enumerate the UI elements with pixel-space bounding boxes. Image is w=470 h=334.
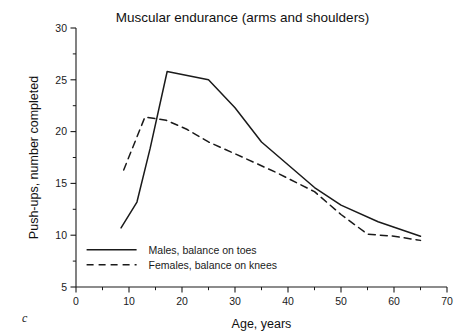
x-tick-label: 0 [73, 295, 79, 307]
panel-label: c [22, 311, 28, 325]
x-tick-label: 60 [388, 295, 400, 307]
y-tick-label: 5 [61, 281, 67, 293]
x-tick-label: 40 [282, 295, 294, 307]
y-tick-label: 10 [55, 229, 67, 241]
x-tick-label: 10 [123, 295, 135, 307]
chart-title: Muscular endurance (arms and shoulders) [116, 10, 370, 25]
line-chart: 51015202530010203040506070Muscular endur… [0, 0, 470, 334]
y-tick-label: 30 [55, 22, 67, 34]
x-tick-label: 20 [176, 295, 188, 307]
x-tick-label: 30 [229, 295, 241, 307]
y-tick-label: 15 [55, 177, 67, 189]
series-line-males [121, 72, 420, 237]
series-line-females [124, 117, 421, 240]
legend-label-males: Males, balance on toes [149, 244, 257, 256]
x-axis-title: Age, years [232, 317, 292, 331]
y-tick-label: 25 [55, 74, 67, 86]
y-tick-label: 20 [55, 125, 67, 137]
legend-label-females: Females, balance on knees [149, 259, 277, 271]
x-tick-label: 70 [441, 295, 453, 307]
x-tick-label: 50 [335, 295, 347, 307]
y-axis-title: Push-ups, number completed [27, 76, 41, 239]
chart-figure: 51015202530010203040506070Muscular endur… [0, 0, 470, 334]
